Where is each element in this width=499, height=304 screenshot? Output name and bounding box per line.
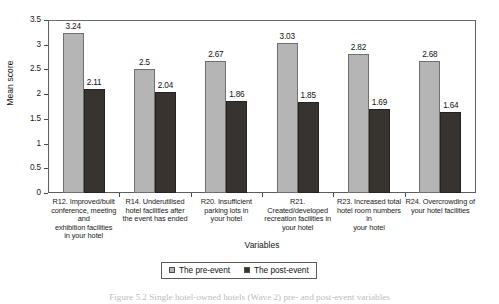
bar-post (84, 89, 105, 193)
category-label-line: your hotel (333, 224, 404, 233)
bar-group: 2.52.04 (119, 20, 190, 193)
bar-pre (277, 43, 298, 193)
x-axis-tick-mark (191, 193, 192, 197)
legend-swatch-pre (169, 267, 175, 273)
bar-pre (419, 61, 440, 193)
legend-item: The pre-event (169, 265, 230, 275)
bar-value-label: 2.68 (413, 50, 446, 59)
chart-canvas: 00.511.522.533.5 Mean score 3.242.112.52… (0, 0, 499, 304)
bar-group: 3.031.85 (262, 20, 333, 193)
bar-group: 2.821.69 (333, 20, 404, 193)
bar-post (369, 109, 390, 193)
bar-post (298, 102, 319, 193)
bar-group: 2.681.64 (405, 20, 476, 193)
bar-value-label: 2.82 (342, 43, 375, 52)
bar-value-label: 2.67 (199, 50, 232, 59)
x-axis-category-label: R14. Underutilisedhotel facilities after… (119, 198, 190, 224)
category-label-line: conference, meeting and (48, 207, 119, 224)
bar-value-label: 2.11 (78, 78, 111, 87)
category-label-line: your hotel (191, 215, 262, 224)
x-axis-category-label: R24. Overcrowding ofyour hotel facilitie… (405, 198, 476, 215)
legend-label: The post-event (254, 265, 309, 275)
bar-pre (348, 54, 369, 193)
legend-swatch-post (244, 267, 250, 273)
y-axis-tick-label: 0.5 (30, 163, 41, 172)
x-axis-title: Variables (48, 240, 476, 250)
bar-series-container: 3.242.112.52.042.671.863.031.852.821.692… (48, 20, 476, 193)
bar-post (155, 92, 176, 193)
y-axis-tick-label: 2 (37, 89, 41, 98)
bar-post (440, 112, 461, 193)
category-label-line: R21. Created/developed (262, 198, 333, 215)
category-label-line: the event has ended (119, 215, 190, 224)
y-axis-tick-label: 1 (37, 139, 41, 148)
figure-caption: Figure 5.2 Single hotel-owned hotels (Wa… (0, 292, 499, 304)
y-axis-tick-label: 2.5 (30, 64, 41, 73)
x-axis-category-label: R12. Improved/builtconference, meeting a… (48, 198, 119, 241)
bar-value-label: 1.64 (434, 101, 467, 110)
x-axis-tick-mark (262, 193, 263, 197)
bar-value-label: 1.69 (363, 98, 396, 107)
bar-value-label: 2.5 (128, 58, 161, 67)
x-axis-tick-mark (119, 193, 120, 197)
x-axis-category-label: R21. Created/developedrecreation facilit… (262, 198, 333, 232)
x-axis-category-label: R23. Increased totalhotel room numbers i… (333, 198, 404, 232)
legend-item: The post-event (244, 265, 309, 275)
bar-group: 2.671.86 (191, 20, 262, 193)
y-axis-tick-label: 3 (37, 40, 41, 49)
bar-pre (205, 61, 226, 193)
x-axis-category-label: R20. Insufficientparking lots inyour hot… (191, 198, 262, 224)
bar-pre (63, 33, 84, 193)
y-axis-tick-label: 3.5 (30, 15, 41, 24)
bar-value-label: 3.24 (57, 22, 90, 31)
bar-value-label: 1.86 (220, 90, 253, 99)
bar-value-label: 3.03 (271, 32, 304, 41)
chart-legend: The pre-eventThe post-event (161, 262, 317, 279)
bar-value-label: 2.04 (149, 81, 182, 90)
y-axis-title: Mean score (5, 43, 15, 123)
category-label-line: hotel room numbers in (333, 207, 404, 224)
legend-label: The pre-event (179, 265, 230, 275)
bar-value-label: 1.85 (292, 91, 325, 100)
category-label-line: your hotel (262, 224, 333, 233)
bar-group: 3.242.11 (48, 20, 119, 193)
y-axis-tick-label: 0 (37, 188, 41, 197)
y-axis-tick-mark (44, 193, 48, 194)
y-axis-tick-label: 1.5 (30, 114, 41, 123)
category-label-line: your hotel facilities (405, 207, 476, 216)
x-axis-tick-mark (333, 193, 334, 197)
bar-post (226, 101, 247, 193)
